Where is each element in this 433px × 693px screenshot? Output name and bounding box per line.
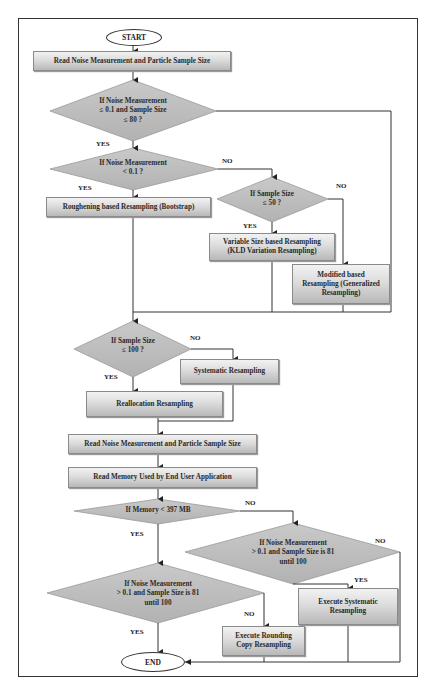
modified-resampling-step: Modified based Resampling (Generalized R… (292, 264, 390, 304)
d2-line-1: If Noise Measurement (99, 159, 167, 168)
start-terminal: START (106, 29, 162, 46)
d7-line-1: If Noise Measurement (124, 580, 192, 589)
no-label-d3: NO (336, 182, 347, 190)
decision-3-text: If Sample Size ≤ 50 ? (232, 187, 312, 211)
yes-label-d1: YES (96, 140, 110, 148)
decision-7-text: If Noise Measurement > 0.1 and Sample Si… (93, 576, 223, 612)
yes-label-d5: YES (130, 530, 144, 538)
exec-systematic-line-2: Resampling (330, 607, 366, 616)
decision-4-text: If Sample Size ≤ 100 ? (93, 334, 173, 358)
exec-rounding-line-1: Execute Rounding (235, 632, 292, 641)
yes-label-d4: YES (104, 373, 118, 381)
systematic-resampling-step: Systematic Resampling (180, 359, 279, 384)
no-label-d5: NO (245, 499, 256, 507)
decision-2-text: If Noise Measurement < 0.1 ? (83, 155, 183, 181)
read-noise-measurement-step-2: Read Noise Measurement and Particle Samp… (68, 434, 257, 454)
yes-label-d3: YES (243, 222, 257, 230)
yes-label-d6: YES (354, 576, 368, 584)
modified-line-1: Modified based (317, 271, 364, 280)
decision-1-text: If Noise Measurement ≤ 0.1 and Sample Si… (83, 92, 183, 130)
modified-line-3: Resampling) (322, 289, 361, 298)
no-label-d4: NO (190, 334, 201, 342)
d1-line-2: ≤ 0.1 and Sample Size (100, 106, 167, 115)
execute-rounding-copy-resampling-step: Execute Rounding Copy Resampling (222, 626, 305, 656)
end-terminal: END (121, 652, 185, 672)
d3-line-2: ≤ 50 ? (263, 199, 281, 208)
d6-line-2: > 0.1 and Sample Size is 81 (252, 548, 335, 557)
decision-5-text: If Memory < 397 MB (98, 504, 218, 518)
d1-line-1: If Noise Measurement (99, 97, 167, 106)
read-memory-step: Read Memory Used by End User Application (68, 467, 257, 488)
read-noise-measurement-step-1: Read Noise Measurement and Particle Samp… (33, 51, 231, 71)
exec-rounding-line-2: Copy Resampling (236, 641, 291, 650)
d6-line-1: If Noise Measurement (259, 539, 327, 548)
no-label-d6: NO (375, 537, 386, 545)
execute-systematic-resampling-step: Execute Systematic Resampling (298, 588, 398, 625)
no-label-d7: NO (244, 610, 255, 618)
no-label-d2: NO (222, 157, 233, 165)
d7-line-2: > 0.1 and Sample Size is 81 (117, 589, 200, 598)
modified-line-2: Resampling (Generalized (302, 280, 380, 289)
exec-systematic-line-1: Execute Systematic (318, 598, 377, 607)
d6-line-3: until 100 (280, 558, 307, 567)
yes-label-d2: YES (78, 184, 92, 192)
variable-line-2: (KLD Variation Resampling) (227, 247, 316, 256)
d4-line-1: If Sample Size (111, 337, 155, 346)
variable-line-1: Variable Size based Resampling (223, 238, 321, 247)
d4-line-2: ≤ 100 ? (122, 346, 144, 355)
d5-line: If Memory < 397 MB (125, 506, 190, 515)
reallocation-resampling-step: Reallocation Resampling (86, 391, 223, 417)
decision-6-text: If Noise Measurement > 0.1 and Sample Si… (228, 535, 358, 571)
roughening-resampling-step: Roughening based Resampling (Bootstrap) (46, 197, 211, 217)
flowchart-canvas: START END Read Noise Measurement and Par… (0, 0, 433, 693)
d7-line-3: until 100 (145, 599, 172, 608)
d1-line-3: ≤ 80 ? (124, 116, 142, 125)
d2-line-2: < 0.1 ? (123, 168, 143, 177)
d3-line-1: If Sample Size (250, 190, 294, 199)
yes-label-d7: YES (130, 628, 144, 636)
variable-size-resampling-step: Variable Size based Resampling (KLD Vari… (209, 233, 335, 261)
